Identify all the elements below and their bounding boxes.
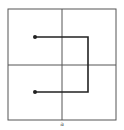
start-dot — [33, 35, 37, 39]
figure-caption: a — [0, 120, 124, 127]
end-dot — [33, 90, 37, 94]
grid-diagram — [0, 0, 124, 130]
